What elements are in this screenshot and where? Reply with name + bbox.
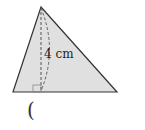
answer-bracket: ( [27,100,35,120]
triangle-figure: 4 cm [0,0,145,130]
height-label: 4 cm [44,47,74,61]
